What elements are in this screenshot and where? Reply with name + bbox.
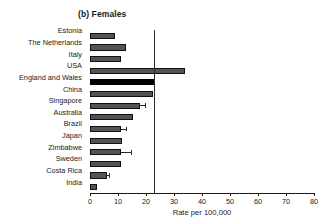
bar [90, 172, 107, 178]
category-label: Sweden [56, 155, 82, 162]
category-label: Costa Rica [46, 167, 82, 174]
x-tick-label: 50 [218, 197, 242, 206]
error-bar-cap [145, 103, 146, 108]
bar [90, 33, 115, 39]
category-label: Italy [69, 51, 82, 58]
bar [90, 44, 126, 50]
category-label: The Netherlands [28, 39, 82, 46]
category-label: Zimbabwe [48, 144, 82, 151]
chart-title: (b) Females [78, 9, 126, 19]
x-axis-title: Rate per 100,000 [90, 208, 314, 217]
chart-figure: (b) Females EstoniaThe NetherlandsItalyU… [0, 0, 321, 222]
category-axis-labels: EstoniaThe NetherlandsItalyUSAEngland an… [0, 30, 86, 193]
x-tick-label: 0 [78, 197, 102, 206]
x-tick [118, 193, 119, 196]
x-tick-label: 70 [274, 197, 298, 206]
category-label: China [63, 86, 82, 93]
category-label: Australia [54, 109, 82, 116]
category-label: Brazil [64, 120, 82, 127]
category-label: Japan [62, 132, 82, 139]
bar [90, 138, 122, 144]
reference-line [154, 30, 155, 194]
x-tick-label: 30 [162, 197, 186, 206]
x-tick [286, 193, 287, 196]
bar [90, 149, 121, 155]
x-tick [146, 193, 147, 196]
bar [90, 161, 121, 167]
bar [90, 56, 121, 62]
error-bar-cap [109, 173, 110, 178]
x-tick [202, 193, 203, 196]
bar [90, 79, 154, 85]
x-tick-label: 40 [190, 197, 214, 206]
x-tick [90, 193, 91, 196]
x-tick-label: 10 [106, 197, 130, 206]
bar [90, 114, 133, 120]
x-tick [174, 193, 175, 196]
x-tick-label: 80 [302, 197, 321, 206]
x-tick [230, 193, 231, 196]
error-bar-cap [131, 150, 132, 155]
error-bar-cap [126, 127, 127, 132]
x-tick-label: 60 [246, 197, 270, 206]
plot-area [90, 30, 314, 193]
category-label: Singapore [49, 97, 82, 104]
x-tick-label: 20 [134, 197, 158, 206]
x-tick [314, 193, 315, 196]
bar [90, 68, 185, 74]
bar [90, 103, 140, 109]
category-label: India [66, 179, 82, 186]
error-bar [121, 152, 131, 153]
bar [90, 126, 121, 132]
category-label: England and Wales [19, 74, 82, 81]
bar [90, 91, 153, 97]
x-tick [258, 193, 259, 196]
category-label: USA [67, 62, 82, 69]
bar [90, 184, 97, 190]
category-label: Estonia [58, 27, 82, 34]
